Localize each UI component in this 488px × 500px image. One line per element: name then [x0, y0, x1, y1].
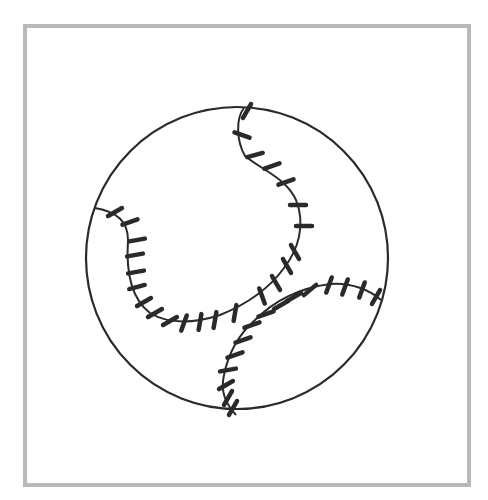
baseball-illustration	[0, 0, 488, 500]
stitch	[220, 369, 236, 372]
stitch	[234, 305, 237, 321]
stitch	[127, 254, 143, 257]
stitch	[214, 312, 217, 328]
stitch	[129, 239, 145, 242]
stitch	[128, 271, 144, 274]
baseball-outline	[86, 107, 388, 409]
stitch	[199, 314, 202, 330]
